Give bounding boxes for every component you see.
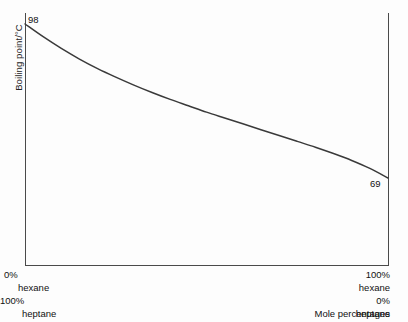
- x-axis-caption: Mole percentages: [250, 308, 390, 319]
- right-heptane-percent: 0%: [300, 294, 390, 307]
- y-axis-title: Boiling point/°C: [13, 8, 24, 108]
- boiling-point-curve: [25, 24, 388, 178]
- x-axis-left-endpoint-labels: 0% hexane 100% heptane: [0, 268, 88, 320]
- right-hexane-name: hexane: [300, 281, 390, 294]
- end-point-label: 69: [370, 178, 381, 189]
- left-heptane-name: heptane: [0, 307, 88, 320]
- boiling-point-chart: Boiling point/°C 98 69 0% hexane 100% he…: [0, 0, 408, 322]
- start-point-label: 98: [28, 14, 39, 25]
- left-hexane-percent: 0%: [0, 268, 88, 281]
- left-hexane-name: hexane: [0, 281, 88, 294]
- left-heptane-percent: 100%: [0, 294, 88, 307]
- right-hexane-percent: 100%: [300, 268, 390, 281]
